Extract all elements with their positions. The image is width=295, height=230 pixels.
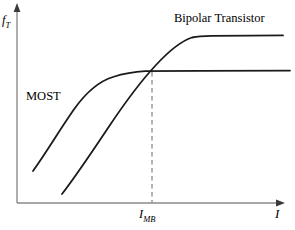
- bipolar-transistor-curve-label: Bipolar Transistor: [174, 12, 265, 25]
- x-axis-tick-label-imb: IMB: [139, 208, 155, 223]
- plot-canvas: [0, 0, 295, 230]
- y-axis-arrow-icon: [14, 3, 21, 12]
- y-axis-label: fT: [2, 14, 10, 29]
- most-curve-label: MOST: [26, 90, 61, 103]
- imb-label-subscript: MB: [143, 214, 155, 224]
- most-curve: [33, 71, 290, 171]
- bipolar-transistor-curve: [62, 35, 283, 194]
- figure-container: fT I IMB Bipolar Transistor MOST: [0, 0, 295, 230]
- y-axis-label-subscript: T: [5, 20, 10, 30]
- x-axis-label: I: [275, 207, 279, 220]
